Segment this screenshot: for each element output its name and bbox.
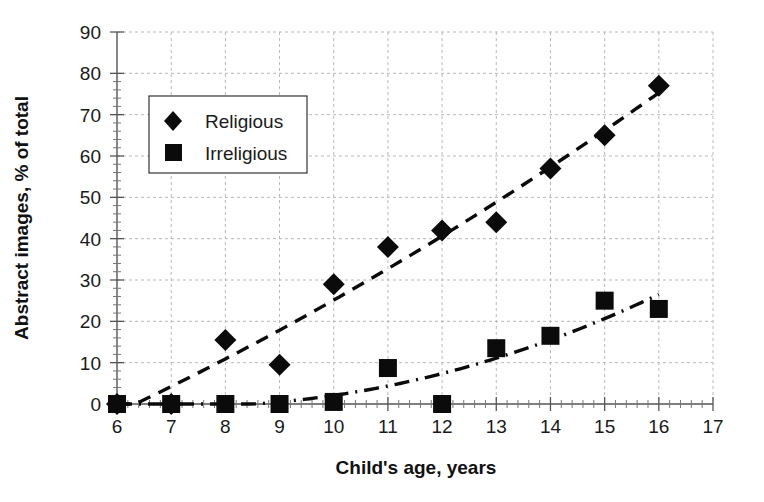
scatter-chart: 0102030405060708090 67891011121314151617… <box>0 0 764 502</box>
data-point-irreligious <box>379 359 397 377</box>
chart-legend: Religious Irreligious <box>149 96 307 173</box>
data-point-irreligious <box>596 292 614 310</box>
data-point-irreligious <box>541 327 559 345</box>
y-tick-label: 90 <box>80 22 101 43</box>
y-tick-label: 60 <box>80 146 101 167</box>
legend-item-irreligious: Irreligious <box>205 143 287 164</box>
x-tick-label: 7 <box>166 416 177 437</box>
data-point-irreligious <box>216 395 234 413</box>
y-tick-label: 40 <box>80 229 101 250</box>
y-tick-label: 20 <box>80 311 101 332</box>
chart-container: 0102030405060708090 67891011121314151617… <box>0 0 764 502</box>
x-tick-label: 13 <box>486 416 507 437</box>
x-tick-label: 10 <box>323 416 344 437</box>
x-tick-label: 16 <box>648 416 669 437</box>
data-point-irreligious <box>108 395 126 413</box>
data-point-irreligious <box>271 395 289 413</box>
y-tick-label: 80 <box>80 63 101 84</box>
y-tick-label: 70 <box>80 105 101 126</box>
x-tick-label: 14 <box>540 416 562 437</box>
y-tick-label: 50 <box>80 187 101 208</box>
x-tick-label: 8 <box>220 416 231 437</box>
legend-item-religious: Religious <box>205 111 283 132</box>
y-tick-label: 30 <box>80 270 101 291</box>
x-tick-label: 11 <box>378 416 398 437</box>
y-tick-label: 0 <box>90 394 101 415</box>
x-tick-label: 15 <box>594 416 615 437</box>
x-tick-label: 6 <box>112 416 123 437</box>
data-point-irreligious <box>325 393 343 411</box>
x-axis-title: Child's age, years <box>336 457 497 478</box>
x-tick-label: 12 <box>432 416 453 437</box>
y-axis-title: Abstract images, % of total <box>11 96 32 340</box>
data-point-irreligious <box>162 395 180 413</box>
legend-square-icon <box>165 144 182 161</box>
data-point-irreligious <box>433 395 451 413</box>
data-point-irreligious <box>650 300 668 318</box>
y-tick-label: 10 <box>80 353 101 374</box>
x-tick-label: 9 <box>274 416 285 437</box>
x-tick-label: 17 <box>702 416 723 437</box>
data-point-irreligious <box>487 339 505 357</box>
